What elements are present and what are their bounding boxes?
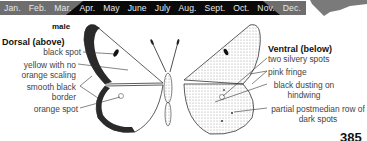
butterfly-illustration [0, 0, 367, 141]
dorsal-hindwing [96, 85, 163, 132]
dorsal-forewing [84, 25, 163, 84]
ventral-hindwing [184, 84, 254, 134]
ventral-forewing [184, 25, 260, 84]
